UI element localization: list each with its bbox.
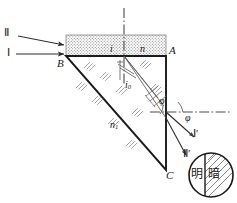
- label-bright-region: 明: [191, 168, 203, 180]
- label-incident-ray-I: Ⅰ: [7, 47, 10, 58]
- angle-arc-phi: [178, 102, 183, 112]
- label-angle-internal-sub: 0: [128, 83, 131, 90]
- label-angle-phi-inner: φ: [159, 96, 165, 106]
- label-vertex-B: B: [57, 58, 64, 69]
- prism-body: [66, 56, 166, 170]
- label-exit-ray-II-prime: Ⅱ′: [183, 148, 190, 159]
- incident-ray-II: [18, 36, 64, 45]
- label-angle-phi: φ: [185, 113, 191, 123]
- label-film-index: n: [140, 44, 145, 54]
- label-exit-ray-I-prime: Ⅰ′: [193, 128, 198, 139]
- label-incident-ray-II: Ⅱ: [4, 27, 9, 38]
- label-vertex-A: A: [169, 45, 176, 56]
- thin-film-layer: [66, 35, 166, 56]
- optics-ray-diagram: Ⅱ Ⅰ B A C i n i0 n1 φ φ Ⅰ′ Ⅱ′ 明 暗: [0, 0, 237, 203]
- glass-hatch-marks: [76, 60, 161, 149]
- label-angle-internal: i0: [125, 80, 131, 91]
- label-prism-index: n1: [110, 120, 118, 131]
- label-vertex-C: C: [166, 170, 173, 181]
- label-angle-incidence: i: [110, 44, 113, 54]
- label-prism-index-sub: 1: [115, 123, 118, 130]
- label-dark-region: 暗: [208, 168, 220, 180]
